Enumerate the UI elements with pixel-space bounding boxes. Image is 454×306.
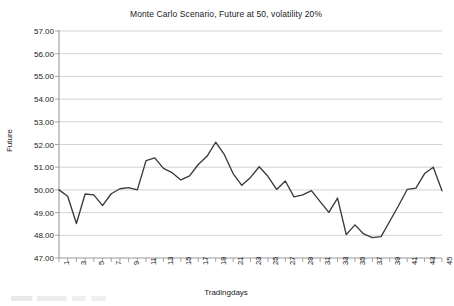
x-tick-label: 37 — [375, 257, 384, 265]
x-tick-label: 17 — [201, 257, 210, 265]
x-tick-label: 21 — [236, 257, 245, 265]
x-tick-label: 19 — [219, 257, 228, 265]
x-tick-label: 7 — [114, 261, 123, 265]
x-tick-label: 3 — [79, 261, 88, 265]
x-tick-label: 27 — [288, 257, 297, 265]
x-tick-label: 9 — [132, 261, 141, 265]
x-tick-label: 23 — [254, 257, 263, 265]
x-tick-label: 15 — [184, 257, 193, 265]
x-tick-label: 25 — [271, 257, 280, 265]
x-tick-label: 11 — [149, 257, 158, 265]
x-tick-label: 13 — [166, 257, 175, 265]
x-tick-label: 29 — [306, 257, 315, 265]
page-footer-artifact — [11, 296, 106, 301]
x-tick-label: 45 — [445, 257, 454, 265]
x-tick-label: 35 — [358, 257, 367, 265]
x-tick-label: 31 — [323, 257, 332, 265]
x-tick-label: 1 — [62, 261, 71, 265]
x-tick-label: 5 — [97, 261, 106, 265]
x-tick-label: 33 — [341, 257, 350, 265]
x-tick-label: 43 — [428, 257, 437, 265]
x-tick-label: 39 — [393, 257, 402, 265]
x-tick-label: 41 — [410, 257, 419, 265]
